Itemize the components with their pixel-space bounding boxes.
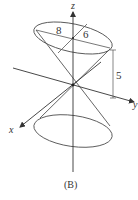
x-axis-label: x [8, 124, 14, 135]
origin-point [72, 84, 75, 87]
x-axis [20, 62, 101, 127]
top-center-point [72, 37, 74, 39]
figure-caption: (B) [64, 179, 77, 191]
height-label: 5 [116, 69, 122, 81]
minor-axis-label: 6 [83, 28, 89, 40]
y-axis-label: y [132, 99, 138, 110]
cone-generator-right [40, 49, 110, 118]
double-cone-figure: z y x 8 6 5 (B) [0, 0, 138, 200]
cone-diagram: z y x 8 6 5 (B) [0, 0, 138, 200]
major-axis-label: 8 [56, 24, 62, 36]
z-axis-label: z [70, 0, 75, 11]
